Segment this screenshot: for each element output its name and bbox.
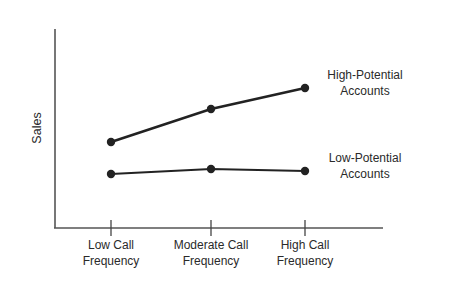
series-label: Accounts <box>340 167 389 181</box>
data-point <box>301 84 309 92</box>
line-chart: Low CallFrequencyModerate CallFrequencyH… <box>0 0 453 298</box>
y-axis-label: Sales <box>30 112 44 143</box>
x-tick-labels: Low CallFrequencyModerate CallFrequencyH… <box>83 238 334 268</box>
x-tick-label: Frequency <box>183 254 240 268</box>
series-labels: High-PotentialAccountsLow-PotentialAccou… <box>327 68 402 181</box>
x-tick-label: Frequency <box>277 254 334 268</box>
data-point <box>107 170 115 178</box>
series-label: High-Potential <box>327 68 402 82</box>
series-label: Accounts <box>340 84 389 98</box>
x-tick-label: Low Call <box>88 238 134 252</box>
x-tick-label: Moderate Call <box>174 238 249 252</box>
data-point <box>301 167 309 175</box>
x-tick-label: Frequency <box>83 254 140 268</box>
series-line <box>111 88 305 142</box>
data-point <box>107 138 115 146</box>
x-tick-label: High Call <box>281 238 330 252</box>
data-point <box>207 165 215 173</box>
series-group <box>107 84 309 178</box>
data-point <box>207 105 215 113</box>
axes <box>54 29 383 228</box>
series-label: Low-Potential <box>329 151 402 165</box>
